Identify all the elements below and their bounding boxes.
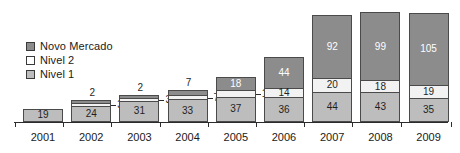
x-axis-tick-2008 bbox=[352, 122, 353, 127]
x-axis-line bbox=[14, 122, 448, 123]
bar-segment-novo-mercado-2007[interactable]: 92 bbox=[312, 15, 352, 78]
bar-stack: 991843 bbox=[360, 12, 400, 122]
x-axis-label-2007: 2007 bbox=[307, 131, 357, 144]
bar-segment-nivel1-2004[interactable]: 33 bbox=[168, 99, 208, 122]
bar-segment-nivel1-2009[interactable]: 35 bbox=[409, 98, 449, 122]
x-axis-label-2001: 2001 bbox=[18, 131, 68, 144]
x-axis-tick-2005 bbox=[208, 122, 209, 127]
bar-stack: 7733 bbox=[168, 90, 208, 122]
value-label-nivel1-2003: 31 bbox=[134, 106, 145, 116]
x-axis-tick-2004 bbox=[160, 122, 161, 127]
legend-item-nivel-1: Nivel 1 bbox=[26, 68, 113, 81]
legend-item-nivel-2: Nivel 2 bbox=[26, 54, 113, 67]
value-label-novo-mercado-2005: 18 bbox=[230, 79, 241, 89]
bar-stack: 1051935 bbox=[409, 13, 449, 122]
stacked-bar-chart: Novo Mercado Nivel 2 Nivel 1 19232423317… bbox=[0, 0, 460, 153]
bar-segment-nivel2-2008[interactable]: 18 bbox=[360, 80, 400, 92]
value-label-nivel1-2004: 33 bbox=[182, 106, 193, 116]
x-axis-tick-2002 bbox=[63, 122, 64, 127]
bar-segment-nivel1-2003[interactable]: 31 bbox=[119, 101, 159, 122]
value-label-nivel2-2009: 19 bbox=[423, 87, 434, 97]
legend-label-nivel-2: Nivel 2 bbox=[40, 55, 74, 66]
bar-segment-nivel1-2002[interactable]: 24 bbox=[71, 106, 111, 123]
bar-segment-nivel1-2005[interactable]: 37 bbox=[216, 97, 256, 122]
bar-stack: 181037 bbox=[216, 77, 256, 122]
value-label-novo-mercado-2004: 7 bbox=[169, 78, 209, 88]
x-axis-tick-2009 bbox=[401, 122, 402, 127]
bar-segment-nivel2-2009[interactable]: 19 bbox=[409, 85, 449, 98]
chart-legend: Novo Mercado Nivel 2 Nivel 1 bbox=[26, 40, 113, 82]
bar-segment-nivel2-2006[interactable]: 14 bbox=[264, 88, 304, 98]
bar-group-2003[interactable]: 2331 bbox=[119, 0, 159, 122]
bar-group-2009[interactable]: 1051935 bbox=[409, 0, 449, 122]
bar-segment-novo-mercado-2009[interactable]: 105 bbox=[409, 13, 449, 85]
bar-segment-novo-mercado-2006[interactable]: 44 bbox=[264, 57, 304, 87]
bar-segment-nivel1-2008[interactable]: 43 bbox=[360, 92, 400, 122]
x-axis-tick-2003 bbox=[111, 122, 112, 127]
x-axis-tick-2006 bbox=[256, 122, 257, 127]
bar-group-2004[interactable]: 7733 bbox=[168, 0, 208, 122]
bar-group-2007[interactable]: 922044 bbox=[312, 0, 352, 122]
bar-segment-nivel1-2001[interactable]: 19 bbox=[23, 109, 63, 122]
value-label-nivel2-2007: 20 bbox=[327, 80, 338, 90]
legend-swatch-icon-novo-mercado bbox=[26, 42, 35, 51]
value-label-nivel1-2009: 35 bbox=[423, 105, 434, 115]
value-label-nivel1-2002: 24 bbox=[86, 109, 97, 119]
x-axis-tick-end bbox=[451, 122, 452, 127]
x-axis-label-2005: 2005 bbox=[211, 131, 261, 144]
legend-swatch-icon-nivel-1 bbox=[26, 70, 35, 79]
bar-segment-novo-mercado-2008[interactable]: 99 bbox=[360, 12, 400, 80]
bar-stack: 19 bbox=[23, 109, 63, 122]
value-label-nivel2-2008: 18 bbox=[375, 82, 386, 92]
x-axis-tick-2001 bbox=[15, 122, 16, 127]
bar-group-2005[interactable]: 181037 bbox=[216, 0, 256, 122]
value-label-novo-mercado-2009: 105 bbox=[420, 44, 437, 54]
bar-segment-nivel2-2007[interactable]: 20 bbox=[312, 78, 352, 92]
bar-group-2008[interactable]: 991843 bbox=[360, 0, 400, 122]
x-axis-label-2009: 2009 bbox=[404, 131, 454, 144]
x-axis-label-2003: 2003 bbox=[114, 131, 164, 144]
value-label-nivel1-2001: 19 bbox=[37, 110, 48, 120]
value-label-novo-mercado-2007: 92 bbox=[327, 42, 338, 52]
bar-stack: 441436 bbox=[264, 57, 304, 122]
bar-stack: 2324 bbox=[71, 100, 111, 123]
value-label-nivel1-2008: 43 bbox=[375, 102, 386, 112]
bar-segment-novo-mercado-2005[interactable]: 18 bbox=[216, 77, 256, 89]
legend-swatch-icon-nivel-2 bbox=[26, 56, 35, 65]
value-label-novo-mercado-2003: 2 bbox=[120, 83, 160, 93]
bar-stack: 922044 bbox=[312, 15, 352, 122]
x-axis-label-2004: 2004 bbox=[163, 131, 213, 144]
legend-label-novo-mercado: Novo Mercado bbox=[40, 41, 113, 52]
value-label-nivel1-2006: 36 bbox=[278, 105, 289, 115]
bar-segment-nivel2-2005[interactable]: 10 bbox=[216, 90, 256, 97]
x-axis-label-2008: 2008 bbox=[355, 131, 405, 144]
bar-segment-nivel1-2006[interactable]: 36 bbox=[264, 97, 304, 122]
bar-group-2006[interactable]: 441436 bbox=[264, 0, 304, 122]
value-label-novo-mercado-2006: 44 bbox=[278, 68, 289, 78]
value-label-nivel1-2007: 44 bbox=[327, 102, 338, 112]
x-axis-tick-2007 bbox=[304, 122, 305, 127]
legend-label-nivel-1: Nivel 1 bbox=[40, 69, 74, 80]
legend-item-novo-mercado: Novo Mercado bbox=[26, 40, 113, 53]
bar-segment-nivel1-2007[interactable]: 44 bbox=[312, 92, 352, 122]
value-label-nivel1-2005: 37 bbox=[230, 104, 241, 114]
value-label-novo-mercado-2002: 2 bbox=[72, 88, 112, 98]
bar-stack: 2331 bbox=[119, 95, 159, 122]
x-axis-label-2002: 2002 bbox=[66, 131, 116, 144]
value-label-novo-mercado-2008: 99 bbox=[375, 42, 386, 52]
x-axis-label-2006: 2006 bbox=[259, 131, 309, 144]
